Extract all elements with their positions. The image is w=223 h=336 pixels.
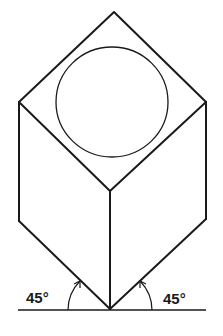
right-bottom-edge (110, 219, 206, 309)
isometric-cube-diagram: 45° 45° (0, 0, 223, 336)
left-face (19, 102, 110, 309)
top-face-outline (19, 12, 206, 191)
right-angle-arc (140, 281, 152, 310)
right-angle-indicator: 45° (140, 281, 186, 310)
right-angle-label: 45° (163, 290, 186, 307)
left-angle-indicator: 45° (26, 281, 80, 310)
left-angle-arc (68, 281, 80, 310)
top-face (19, 12, 206, 191)
inscribed-circle (56, 47, 168, 157)
left-angle-label: 45° (26, 289, 49, 306)
